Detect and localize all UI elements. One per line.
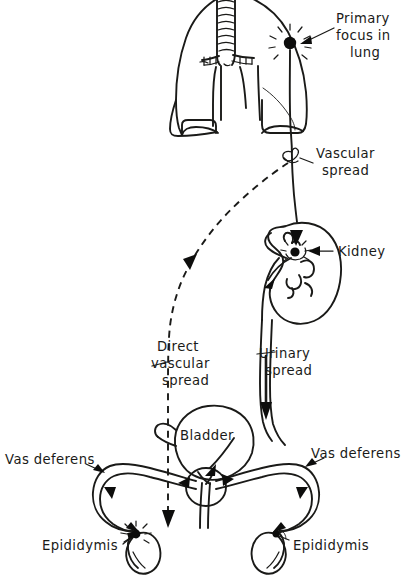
kidney-calyces (284, 233, 314, 298)
label-primary-focus-line2: focus in (336, 28, 391, 43)
prostate (186, 468, 226, 506)
left-lung (246, 0, 307, 133)
label-bladder: Bladder (180, 428, 234, 443)
label-primary-focus-line3: lung (350, 45, 380, 60)
label-primary-focus-line1: Primary (336, 11, 390, 26)
label-epididymis-right: Epididymis (293, 538, 369, 553)
left-vas-deferens (93, 464, 196, 533)
label-urinary-spread-line1: Urinary (259, 346, 310, 361)
label-direct-vascular-line3: spread (162, 373, 209, 388)
label-vascular-spread-line1: Vascular (316, 146, 375, 161)
right-vas-deferens (216, 464, 319, 533)
ureter (260, 320, 285, 445)
anatomy-diagram: Primary focus in lung Vascular spread Ki… (0, 0, 406, 586)
label-vascular-spread-line2: spread (322, 163, 369, 178)
label-vas-deferens-right: Vas deferens (311, 446, 401, 461)
label-direct-vascular-line2: vascular (151, 356, 210, 371)
label-epididymis-left: Epididymis (42, 538, 118, 553)
bladder-left-horn (155, 424, 176, 437)
kidney (268, 223, 341, 324)
mediastinum-left (258, 66, 260, 120)
label-urinary-spread-line2: spread (265, 363, 312, 378)
vascular-spread-path (290, 50, 297, 222)
right-vas-arrow-2 (296, 487, 308, 499)
direct-vascular-spread-arrowhead (183, 254, 197, 270)
trachea-cartilage-rings (218, 1, 234, 52)
label-direct-vascular-line1: Direct (157, 339, 199, 354)
label-vas-deferens-left: Vas deferens (5, 452, 95, 467)
right-testis (252, 533, 286, 574)
kidney-group (262, 223, 341, 324)
main-bronchi (200, 55, 254, 66)
bladder-to-prostate-arrow (205, 438, 234, 476)
leader-vascular-spread (300, 158, 313, 163)
thorax-group (170, 0, 307, 136)
lung-hilum-right (213, 67, 216, 126)
vascular-spread-coil (283, 148, 299, 162)
label-kidney: Kidney (338, 244, 385, 259)
left-vas-arrow-2 (104, 487, 116, 499)
direct-vascular-spread-terminal-arrowhead (162, 510, 175, 528)
left-testis (126, 533, 160, 574)
lung-hilum-left (240, 67, 246, 108)
prostate-group (186, 468, 226, 528)
